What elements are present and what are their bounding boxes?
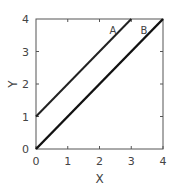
x-axis-label: X — [95, 172, 103, 186]
y-tick-label: 2 — [22, 78, 29, 91]
series-a-label: A — [110, 25, 117, 36]
series-b-label: B — [141, 25, 148, 36]
y-tick-label: 3 — [22, 46, 29, 59]
y-tick-labels: 0 1 2 3 4 — [22, 13, 29, 156]
x-tick-label: 1 — [64, 155, 71, 168]
x-tick-label: 4 — [160, 155, 167, 168]
y-tick-label: 0 — [22, 143, 29, 156]
x-tick-label: 0 — [33, 155, 40, 168]
y-tick-label: 1 — [22, 111, 29, 124]
x-tick-labels: 0 1 2 3 4 — [33, 155, 167, 168]
y-axis-label: Y — [6, 80, 20, 89]
chart: 0 1 2 3 4 0 1 2 3 4 X Y A B — [0, 0, 178, 191]
y-tick-label: 4 — [22, 13, 29, 26]
x-tick-label: 2 — [96, 155, 103, 168]
series-b-line — [36, 19, 163, 149]
x-tick-label: 3 — [128, 155, 135, 168]
